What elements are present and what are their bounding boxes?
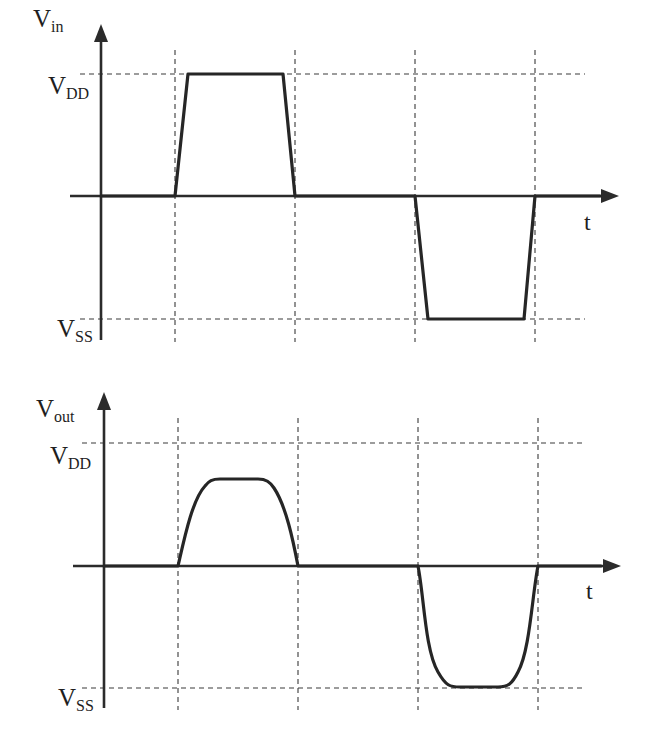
vin-axis-label: Vin [33, 5, 64, 35]
vin-t-label: t [584, 209, 591, 235]
arrow-up-icon [94, 24, 108, 42]
vout-t-label: t [586, 578, 593, 604]
vout-plot: Vout VDD VSS t [36, 392, 621, 714]
vin-vss-label: VSS [57, 315, 93, 345]
vin-plot: Vin VDD VSS t [33, 5, 619, 345]
arrow-right-icon [603, 559, 621, 573]
vout-vss-label: VSS [58, 684, 94, 714]
vout-vdd-label: VDD [50, 442, 91, 472]
waveform-figure: Vin VDD VSS t Vout VDD VSS t [0, 0, 660, 749]
arrow-right-icon [601, 189, 619, 203]
vin-vdd-label: VDD [48, 72, 89, 102]
arrow-up-icon [97, 392, 111, 410]
vout-axis-label: Vout [36, 395, 75, 425]
